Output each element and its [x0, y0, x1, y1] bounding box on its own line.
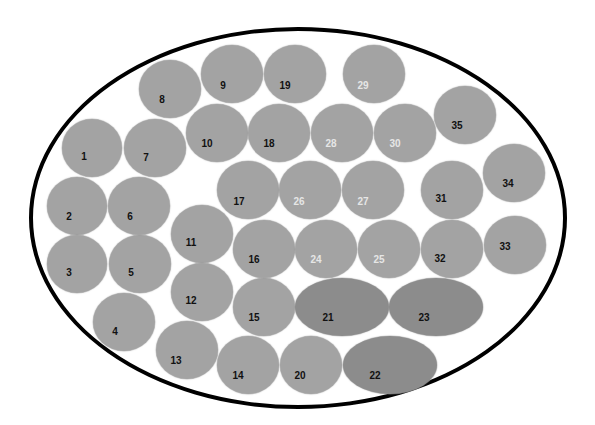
cell-2: 2	[47, 177, 107, 235]
cell-label: 20	[294, 370, 305, 381]
cell-24: 24	[295, 220, 357, 278]
cell-31: 31	[421, 161, 483, 219]
cell-21: 21	[295, 278, 389, 336]
cell-label: 16	[248, 254, 259, 265]
cell-3: 3	[47, 235, 107, 293]
cell-label: 14	[232, 370, 243, 381]
cell-label: 32	[434, 253, 445, 264]
cell-label: 33	[499, 241, 510, 252]
cell-label: 23	[418, 312, 429, 323]
cell-14: 14	[217, 336, 279, 394]
cell-label: 34	[502, 178, 513, 189]
cell-28: 28	[311, 104, 373, 162]
cell-label: 28	[325, 138, 336, 149]
cell-label: 22	[369, 370, 380, 381]
cell-25: 25	[358, 220, 420, 278]
cell-27: 27	[342, 161, 404, 219]
cell-label: 18	[263, 138, 274, 149]
cell-9: 9	[201, 45, 263, 103]
cell-8: 8	[139, 60, 201, 118]
cell-label: 13	[170, 355, 181, 366]
cell-label: 24	[310, 254, 321, 265]
cell-10: 10	[186, 104, 248, 162]
cell-13: 13	[156, 321, 218, 379]
cell-6: 6	[108, 177, 170, 235]
cell-label: 11	[186, 237, 197, 248]
cell-17: 17	[217, 161, 279, 219]
cell-18: 18	[248, 104, 310, 162]
cell-label: 17	[233, 196, 244, 207]
cell-label: 21	[322, 312, 333, 323]
cell-32: 32	[421, 220, 483, 278]
cell-label: 27	[357, 196, 368, 207]
cell-30: 30	[374, 104, 436, 162]
cell-29: 29	[343, 45, 405, 103]
cell-label: 35	[451, 120, 462, 131]
cell-5: 5	[109, 235, 171, 293]
cell-label: 31	[435, 193, 446, 204]
cell-label: 26	[293, 196, 304, 207]
cell-15: 15	[233, 278, 295, 336]
cell-16: 16	[233, 220, 295, 278]
cell-4: 4	[93, 293, 155, 351]
cell-26: 26	[279, 161, 341, 219]
cell-label: 4	[112, 326, 118, 337]
cell-label: 5	[128, 267, 134, 278]
cell-label: 3	[66, 267, 72, 278]
cell-35: 35	[434, 86, 496, 144]
cell-label: 12	[185, 295, 196, 306]
cell-33: 33	[484, 216, 546, 274]
cell-34: 34	[483, 144, 545, 202]
cell-label: 29	[357, 80, 368, 91]
cell-label: 15	[248, 312, 259, 323]
cell-label: 6	[127, 211, 133, 222]
cell-20: 20	[280, 336, 342, 394]
cell-label: 30	[389, 138, 400, 149]
cell-label: 1	[81, 151, 87, 162]
cell-23: 23	[389, 278, 483, 336]
cell-label: 7	[143, 152, 149, 163]
cell-22: 22	[343, 336, 437, 394]
cell-12: 12	[171, 263, 233, 321]
cell-label: 19	[279, 80, 290, 91]
cell-11: 11	[171, 205, 233, 263]
cell-label: 2	[66, 211, 72, 222]
cell-19: 19	[264, 45, 326, 103]
cell-label: 25	[373, 254, 384, 265]
cell-label: 8	[159, 94, 165, 105]
cell-label: 10	[201, 138, 212, 149]
cell-1: 1	[62, 119, 122, 177]
cell-7: 7	[124, 119, 186, 177]
cell-label: 9	[220, 80, 226, 91]
